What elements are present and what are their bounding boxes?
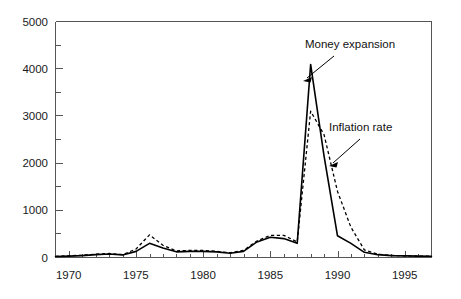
annotation-inflation-rate: Inflation rate	[329, 121, 392, 168]
y-tick-label-4000: 4000	[22, 63, 48, 75]
plot-frame	[56, 22, 432, 258]
x-tick-label-1990: 1990	[325, 269, 351, 281]
y-tick-label-2000: 2000	[22, 157, 48, 169]
annotation-inflation-rate-label: Inflation rate	[329, 121, 392, 133]
chart-container: 5000 4000 3000 2000 1000 0 1970 1975 198…	[0, 0, 461, 299]
y-axis-labels: 5000 4000 3000 2000 1000 0	[22, 16, 48, 264]
x-tick-label-1985: 1985	[258, 269, 284, 281]
series-money-expansion	[56, 64, 432, 256]
y-tick-label-5000: 5000	[22, 16, 48, 28]
y-tick-label-1000: 1000	[22, 204, 48, 216]
y-axis-ticks	[56, 22, 63, 258]
x-tick-label-1970: 1970	[56, 269, 82, 281]
line-chart: 5000 4000 3000 2000 1000 0 1970 1975 198…	[0, 0, 461, 299]
x-axis-labels: 1970 1975 1980 1985 1990 1995	[56, 269, 418, 281]
x-tick-label-1980: 1980	[190, 269, 216, 281]
y-tick-label-0: 0	[42, 252, 48, 264]
x-tick-label-1975: 1975	[123, 269, 149, 281]
annotation-money-expansion-label: Money expansion	[305, 38, 395, 50]
y-tick-label-3000: 3000	[22, 110, 48, 122]
x-tick-label-1995: 1995	[392, 269, 418, 281]
annotation-money-expansion: Money expansion	[303, 38, 395, 83]
